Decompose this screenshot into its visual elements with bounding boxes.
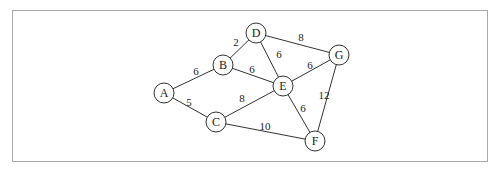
node-a: A (154, 83, 174, 103)
edge-weight-label: 6 (193, 65, 199, 77)
node-label: E (279, 79, 286, 93)
edge-weight-label: 8 (239, 92, 245, 104)
nodes-layer: ABCDEGF (154, 23, 349, 151)
node-g: G (329, 45, 349, 65)
edge-weight-label: 6 (300, 102, 306, 114)
edge-c-e (216, 86, 283, 122)
node-label: B (219, 58, 227, 72)
edge-weight-label: 12 (319, 89, 330, 101)
edge-weight-label: 5 (186, 96, 192, 108)
edge-weight-label: 2 (233, 36, 239, 48)
node-label: G (335, 48, 344, 62)
edge-weight-label: 6 (307, 59, 313, 71)
edge-weight-label: 8 (298, 31, 304, 43)
node-c: C (206, 112, 226, 132)
node-d: D (246, 23, 266, 43)
node-e: E (273, 76, 293, 96)
edge-weight-label: 6 (249, 63, 255, 75)
node-label: D (252, 26, 261, 40)
node-label: C (212, 115, 220, 129)
node-b: B (213, 55, 233, 75)
node-label: A (160, 86, 169, 100)
edge-weight-label: 10 (260, 120, 272, 132)
node-label: F (312, 134, 319, 148)
edge-weight-label: 6 (276, 48, 282, 60)
node-f: F (305, 131, 325, 151)
weighted-graph: 6526686861210 ABCDEGF (0, 0, 503, 172)
edges-layer (164, 33, 339, 141)
